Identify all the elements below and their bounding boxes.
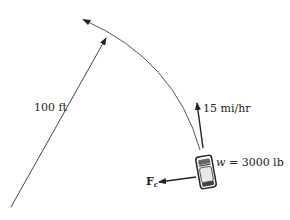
force-subscript: c [154,180,158,189]
force-symbol: F [146,175,154,188]
weight-variable: w [216,156,225,169]
weight-value: = 3000 lb [225,156,283,169]
force-label: Fc [146,176,158,188]
weight-label: w = 3000 lb [216,157,284,168]
centripetal-force-vector [159,177,196,182]
velocity-label: 15 mi/hr [203,103,251,114]
radius-label: 100 ft [34,102,67,113]
car-icon [195,155,216,189]
circular-path-arc [84,20,200,150]
diagram-canvas: 100 ft 15 mi/hr w = 3000 lb Fc [0,0,290,220]
arc-arrowhead-icon [82,19,91,25]
radius-line [11,38,106,207]
